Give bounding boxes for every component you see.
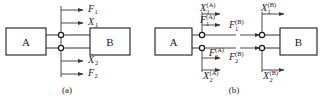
panel-b-label-x2-a-sub: 2 (210, 76, 213, 83)
panel-a-label-x1-sub: 1 (95, 21, 98, 28)
panel-b-block-b-label: B (295, 36, 302, 48)
panel-b-label-x2-a: X 2 (A) (202, 69, 219, 83)
panel-b-label-f1-b-sub: 1 (235, 25, 238, 32)
panel-b-port-node-a-upper (199, 32, 204, 37)
panel-b-label-f1-b-sup: (B) (235, 18, 244, 26)
panel-a-port-node-lower (58, 45, 63, 50)
panel-a-label-f2-sub: 2 (95, 72, 98, 79)
panel-b-label-x2-b-sub: 2 (270, 76, 273, 83)
panel-a-block-a-label: A (22, 36, 30, 48)
panel-b-label-f1-b: F 1 (B) (228, 18, 244, 32)
diagram-canvas: A B F 1 X (0, 0, 322, 99)
panel-a-label-f1-sub: 1 (95, 8, 98, 15)
panel-b-label-x2-a-sup: (A) (210, 69, 219, 77)
panel-b-block-a-label: A (170, 36, 178, 48)
panel-a-caption: (a) (62, 85, 72, 95)
panel-b-label-x1-b-sup: (B) (268, 1, 277, 9)
panel-b-label-x1-b-sub: 1 (268, 8, 271, 15)
panel-b-label-f1-a-sup: (A) (206, 13, 215, 21)
panel-a-label-x1-base: X (87, 16, 95, 27)
panel-b-label-f2-b-sup: (B) (235, 50, 244, 58)
panel-a-label-x2-base: X (87, 54, 95, 65)
panel-a-block-b-label: B (106, 36, 113, 48)
figure-root: A B F 1 X (0, 0, 322, 99)
panel-b-label-x2-b-sup: (B) (270, 69, 279, 77)
panel-b-port-node-b-lower (259, 45, 264, 50)
panel-a-port-node-upper (58, 32, 63, 37)
panel-b-port-node-a-lower (199, 45, 204, 50)
panel-a: A B F 1 X (6, 3, 130, 96)
panel-b-label-f2-a-sub: 2 (215, 53, 218, 60)
panel-a-label-f2: F 2 (87, 67, 98, 80)
panel-a-label-x2-sub: 2 (95, 59, 98, 66)
panel-a-label-f1: F 1 (87, 3, 98, 16)
panel-b-label-x1-a-sup: (A) (207, 1, 216, 9)
panel-b-caption: (b) (229, 85, 240, 95)
panel-b: A B (155, 1, 317, 96)
panel-b-label-f1-a: F 1 (A) (199, 13, 215, 27)
panel-b-label-f2-b-sub: 2 (235, 57, 238, 64)
panel-b-label-f2-a: F 2 (A) (208, 46, 224, 60)
panel-a-label-x1: X 1 (87, 16, 98, 29)
panel-b-label-f2-a-sup: (A) (215, 46, 224, 54)
panel-b-label-x2-b: X 2 (B) (262, 69, 278, 83)
panel-b-label-f2-b: F 2 (B) (228, 50, 244, 64)
panel-b-port-node-b-upper (259, 32, 264, 37)
panel-b-label-f1-a-sub: 1 (206, 20, 209, 27)
panel-b-label-x1-b: X 1 (B) (260, 1, 276, 15)
